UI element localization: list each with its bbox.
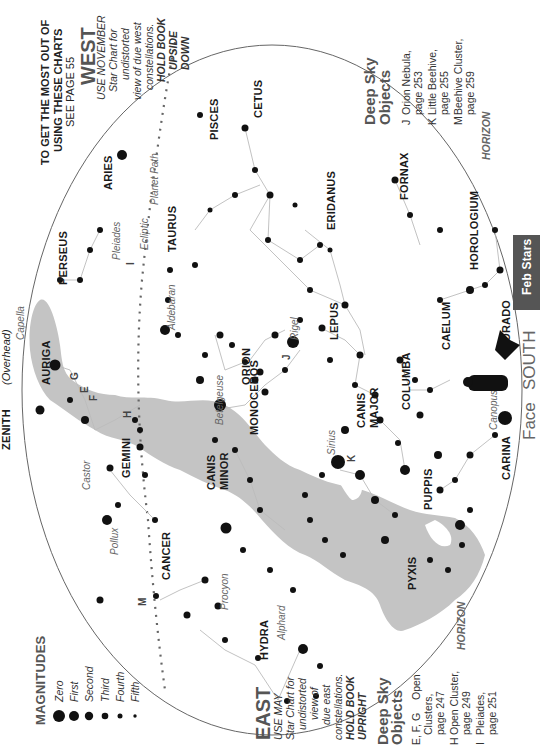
svg-text:I: I — [474, 742, 486, 745]
svg-text:Beehive Cluster,: Beehive Cluster, — [452, 39, 464, 115]
svg-text:E, F, G: E, F, G — [410, 713, 422, 745]
svg-text:K: K — [346, 454, 357, 462]
horizon-label-east: HORIZON — [455, 601, 467, 650]
svg-text:Planet Path: Planet Path — [149, 153, 160, 205]
svg-text:Face: Face — [520, 402, 539, 440]
usage-note: TO GET THE MOST OUT OF USING THESE CHART… — [39, 19, 76, 165]
svg-text:PYXIS: PYXIS — [406, 557, 418, 590]
svg-text:Pleiades,: Pleiades, — [474, 692, 486, 735]
svg-text:Fifth: Fifth — [129, 681, 141, 702]
svg-text:J: J — [281, 354, 292, 360]
svg-text:CANIS: CANIS — [355, 393, 367, 428]
svg-text:Canopus: Canopus — [488, 390, 499, 430]
svg-text:F: F — [88, 395, 99, 401]
svg-text:HOLD BOOK: HOLD BOOK — [344, 674, 356, 740]
svg-text:E: E — [79, 386, 90, 393]
svg-text:page 251: page 251 — [486, 691, 498, 735]
svg-text:ARIES: ARIES — [102, 155, 114, 190]
svg-text:Alphard: Alphard — [276, 605, 287, 641]
svg-text:MAJOR: MAJOR — [368, 387, 380, 428]
svg-text:Open: Open — [410, 674, 422, 700]
svg-text:Objects: Objects — [388, 690, 405, 745]
svg-text:Third: Third — [99, 677, 111, 702]
svg-text:CARINA: CARINA — [500, 436, 512, 480]
svg-text:USE MAY: USE MAY — [272, 693, 284, 740]
svg-text:MONOCEROS: MONOCEROS — [248, 360, 260, 435]
svg-text:EAST: EAST — [252, 687, 274, 740]
svg-text:M: M — [137, 598, 148, 606]
svg-text:CETUS: CETUS — [252, 80, 264, 118]
svg-text:H: H — [122, 411, 133, 418]
svg-text:SOUTH: SOUTH — [520, 331, 539, 391]
svg-text:page 255: page 255 — [438, 71, 450, 115]
svg-text:ERIDANUS: ERIDANUS — [325, 171, 337, 230]
svg-text:SEE PAGE 55: SEE PAGE 55 — [64, 57, 76, 127]
feb-stars-tab[interactable]: Feb Stars — [513, 235, 540, 310]
svg-text:CANCER: CANCER — [160, 532, 172, 580]
svg-text:Objects: Objects — [376, 70, 393, 125]
svg-text:CANIS: CANIS — [205, 455, 217, 490]
svg-text:due east: due east — [320, 684, 332, 725]
svg-text:K: K — [426, 118, 438, 125]
svg-text:Capella: Capella — [15, 306, 26, 340]
svg-text:Sirius: Sirius — [326, 430, 337, 455]
svg-text:view of due west: view of due west — [131, 21, 143, 100]
svg-text:Betelgeuse: Betelgeuse — [214, 375, 225, 425]
svg-text:page 253: page 253 — [412, 71, 424, 115]
svg-text:page 259: page 259 — [464, 71, 476, 115]
svg-text:GEMINI: GEMINI — [120, 438, 132, 478]
svg-text:Pleiades: Pleiades — [111, 222, 122, 260]
svg-text:First: First — [68, 681, 80, 702]
horizon-label-west: HORIZON — [480, 111, 492, 160]
svg-text:Fourth: Fourth — [114, 671, 126, 702]
svg-text:PERSEUS: PERSEUS — [57, 231, 69, 285]
svg-text:PISCES: PISCES — [208, 98, 220, 140]
east-block: EAST USE MAY Star Chart for undistorted … — [252, 673, 368, 740]
magnitudes-legend: MAGNITUDES Zero First Second Third Fourt… — [33, 635, 141, 725]
svg-text:Second: Second — [83, 665, 95, 702]
svg-text:Open Cluster,: Open Cluster, — [448, 671, 460, 735]
svg-text:ZENITH: ZENITH — [0, 409, 12, 450]
svg-text:HOLD BOOK: HOLD BOOK — [155, 16, 167, 82]
svg-text:HOROLOGIUM: HOROLOGIUM — [468, 191, 480, 270]
svg-text:Pollux: Pollux — [109, 527, 120, 555]
svg-text:Zero: Zero — [53, 680, 65, 703]
svg-text:Feb Stars: Feb Stars — [520, 238, 534, 295]
svg-text:(Overhead): (Overhead) — [0, 329, 12, 385]
svg-text:constellations.: constellations. — [143, 23, 155, 90]
svg-text:HYDRA: HYDRA — [258, 620, 270, 660]
svg-text:view of: view of — [308, 686, 320, 720]
svg-text:Ecliptic: Ecliptic — [139, 218, 150, 250]
svg-text:UPSIDE: UPSIDE — [167, 30, 179, 70]
svg-text:Clusters,: Clusters, — [422, 694, 434, 735]
svg-text:USE NOVEMBER: USE NOVEMBER — [95, 15, 107, 100]
svg-text:CAELUM: CAELUM — [440, 302, 452, 350]
svg-text:Star Chart for: Star Chart for — [284, 676, 296, 740]
svg-text:Aldebaran: Aldebaran — [166, 284, 177, 331]
svg-text:UPRIGHT: UPRIGHT — [356, 691, 368, 740]
svg-text:Castor: Castor — [81, 460, 92, 490]
svg-text:PUPPIS: PUPPIS — [422, 468, 434, 510]
deep-sky-objects-east: Deep Sky Objects E, F, G Open Clusters, … — [374, 671, 498, 745]
svg-text:MAGNITUDES: MAGNITUDES — [33, 635, 48, 725]
svg-text:Rigel: Rigel — [289, 316, 300, 340]
ecliptic-path — [138, 42, 175, 690]
svg-text:Procyon: Procyon — [219, 573, 230, 610]
west-block: WEST USE NOVEMBER Star Chart for undisto… — [77, 15, 191, 100]
svg-text:FORNAX: FORNAX — [398, 152, 410, 200]
zenith-label: ZENITH (Overhead) — [0, 329, 12, 450]
svg-text:Orion Nebula,: Orion Nebula, — [400, 50, 412, 115]
svg-text:Little Beehive,: Little Beehive, — [426, 49, 438, 115]
svg-text:M: M — [452, 116, 464, 125]
face-south-label: Face SOUTH — [520, 331, 539, 441]
svg-text:G: G — [69, 372, 80, 380]
deep-sky-objects-west: Deep Sky Objects J Orion Nebula, page 25… — [361, 39, 476, 125]
horizon-circle — [22, 45, 522, 735]
star-chart: PISCES CETUS ARIES PERSEUS TAURUS ERIDAN… — [0, 0, 540, 750]
svg-text:USING THESE CHARTS: USING THESE CHARTS — [52, 29, 64, 152]
svg-text:constellations.: constellations. — [332, 673, 344, 740]
svg-text:undistorted: undistorted — [296, 677, 308, 730]
svg-text:undistorted: undistorted — [119, 27, 131, 80]
svg-text:Star Chart for: Star Chart for — [107, 28, 119, 92]
svg-text:TO GET THE MOST OUT OF: TO GET THE MOST OUT OF — [39, 19, 51, 165]
